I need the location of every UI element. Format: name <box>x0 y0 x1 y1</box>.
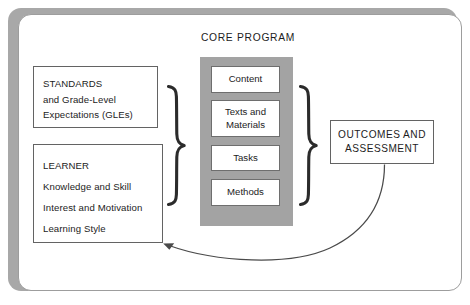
outcomes-and-assessment-box: OUTCOMES AND ASSESSMENT <box>330 120 434 164</box>
outcomes-line-2: ASSESSMENT <box>338 142 426 156</box>
standards-line-1: STANDARDS <box>43 76 157 92</box>
learner-line-1: LEARNER <box>43 155 162 176</box>
core-item-methods: Methods <box>211 179 280 206</box>
core-item-texts-and-materials: Texts and Materials <box>211 100 280 137</box>
outcomes-line-1: OUTCOMES AND <box>338 128 426 142</box>
standards-box: STANDARDS and Grade-Level Expectations (… <box>33 66 158 128</box>
core-program-column: Content Texts and Materials Tasks Method… <box>200 57 293 226</box>
core-item-tasks: Tasks <box>211 145 280 171</box>
learner-line-2: Knowledge and Skill <box>43 176 162 197</box>
learner-line-3: Interest and Motivation <box>43 197 162 218</box>
standards-line-2: and Grade-Level <box>43 92 157 108</box>
core-program-title: CORE PROGRAM <box>186 32 310 43</box>
learner-line-4: Learning Style <box>43 218 162 239</box>
learner-box: LEARNER Knowledge and Skill Interest and… <box>33 144 163 243</box>
standards-line-3: Expectations (GLEs) <box>43 107 157 123</box>
core-item-content: Content <box>211 66 280 93</box>
diagram-canvas: STANDARDS and Grade-Level Expectations (… <box>0 0 470 305</box>
